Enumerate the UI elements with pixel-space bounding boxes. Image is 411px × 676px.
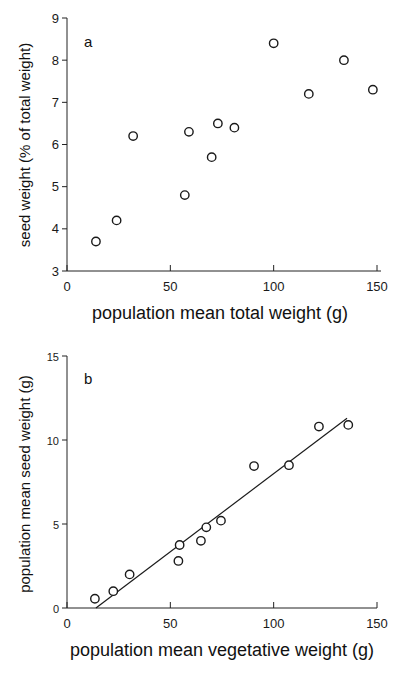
data-point [340, 56, 348, 64]
x-tick-label: 100 [263, 616, 285, 631]
panel-b-y-ticks: 051015 [47, 351, 67, 615]
data-point [214, 119, 222, 127]
y-tick-label: 9 [52, 11, 59, 26]
x-tick-label: 150 [366, 279, 388, 294]
x-tick-label: 100 [263, 279, 285, 294]
data-point [217, 516, 225, 524]
panel-a-scatter-plot: 3456789 050100150 a population mean tota… [16, 11, 388, 324]
y-tick-label: 4 [52, 221, 59, 236]
y-tick-label: 5 [52, 179, 59, 194]
x-tick-label: 50 [163, 279, 177, 294]
panel-b-data-points [91, 421, 353, 603]
panel-b-x-axis-title: population mean vegetative weight (g) [70, 640, 374, 660]
data-point [207, 153, 215, 161]
panel-a-data-points [92, 39, 377, 246]
panel-b-y-axis-title: population mean seed weight (g) [16, 375, 33, 593]
data-point [185, 128, 193, 136]
data-point [369, 85, 377, 93]
x-tick-label: 150 [366, 616, 388, 631]
regression-line [96, 418, 347, 608]
y-tick-label: 0 [53, 603, 59, 615]
panel-a-y-axis-title: seed weight (% of total weight) [16, 43, 33, 247]
y-tick-label: 3 [52, 264, 59, 279]
x-tick-label: 0 [63, 279, 70, 294]
figure: 3456789 050100150 a population mean tota… [0, 0, 411, 676]
panel-b-regression-line-group [96, 418, 347, 608]
data-point [129, 132, 137, 140]
data-point [175, 541, 183, 549]
data-point [305, 90, 313, 98]
data-point [174, 557, 182, 565]
data-point [112, 216, 120, 224]
data-point [125, 570, 133, 578]
y-tick-label: 7 [52, 95, 59, 110]
panel-a-x-axis-title: population mean total weight (g) [92, 303, 348, 323]
y-tick-label: 5 [53, 519, 59, 531]
x-tick-label: 50 [163, 616, 177, 631]
data-point [250, 462, 258, 470]
data-point [202, 523, 210, 531]
data-point [197, 537, 205, 545]
data-point [92, 237, 100, 245]
panel-b-label: b [84, 370, 92, 387]
panel-a-x-ticks: 050100150 [63, 265, 387, 294]
y-tick-label: 6 [52, 137, 59, 152]
x-tick-label: 0 [63, 616, 70, 631]
panel-b-axes [67, 356, 377, 608]
data-point [181, 191, 189, 199]
data-point [315, 422, 323, 430]
y-tick-label: 8 [52, 53, 59, 68]
data-point [109, 587, 117, 595]
data-point [285, 461, 293, 469]
panel-b-scatter-plot: 051015 050100150 b population mean veget… [16, 351, 388, 661]
panel-a-label: a [84, 33, 93, 50]
y-tick-label: 15 [47, 351, 59, 363]
data-point [91, 595, 99, 603]
panel-a-y-ticks: 3456789 [52, 11, 67, 279]
panel-b-x-ticks: 050100150 [63, 602, 387, 631]
data-point [269, 39, 277, 47]
y-tick-label: 10 [47, 435, 59, 447]
panel-a-axes [67, 18, 381, 271]
data-point [344, 421, 352, 429]
data-point [230, 123, 238, 131]
